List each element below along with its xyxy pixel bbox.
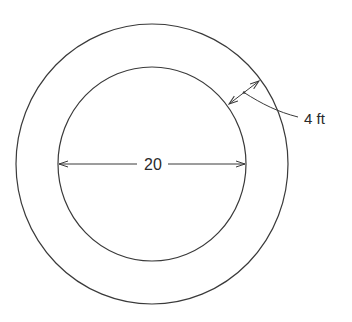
diameter-label: 20	[144, 156, 162, 173]
annulus-diagram: 20 4 ft	[0, 0, 352, 322]
ring-width-label: 4 ft	[304, 110, 326, 127]
